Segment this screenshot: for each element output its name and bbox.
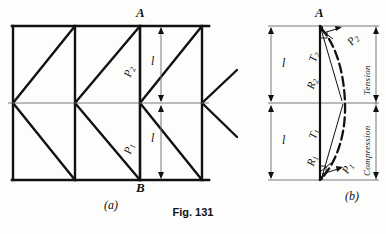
force-dim-arrow-upper-bottom xyxy=(268,95,274,102)
force-zone-tension-label: Tension xyxy=(363,65,372,95)
truss-dim-lower-label: l xyxy=(151,132,154,144)
figure-drawing xyxy=(0,0,386,234)
truss-dim-arrow-lower-bottom xyxy=(158,172,164,179)
truss-diagonal-3-upper xyxy=(140,26,202,103)
truss-node-A-label: A xyxy=(136,6,145,19)
force-vector-P2-arrowhead xyxy=(335,26,342,31)
truss-diagonal-1-lower xyxy=(13,103,75,180)
truss-diagonal-3-lower xyxy=(140,103,202,180)
force-dim-arrow-lower-top xyxy=(268,105,274,112)
truss-dim-arrow-upper-bottom xyxy=(158,95,164,102)
force-node-A-label: A xyxy=(315,6,324,19)
figure-page: A B l l P2 P1 (a) A l l Tension Compress… xyxy=(0,0,386,234)
truss-diagram xyxy=(8,26,237,180)
force-node-A-dot xyxy=(319,26,323,30)
truss-dim-arrow-upper-top xyxy=(158,27,164,34)
force-zone-arrow-top xyxy=(373,27,379,34)
truss-diagonal-4-lower xyxy=(202,103,237,137)
force-zone-arrow-mid-lower xyxy=(373,105,379,112)
truss-dim-upper-label: l xyxy=(151,55,154,67)
force-zone-arrow-mid-upper xyxy=(373,95,379,102)
truss-diagonal-2-upper xyxy=(75,26,140,103)
force-zone-compression-label: Compression xyxy=(363,126,372,176)
truss-dim-arrow-lower-top xyxy=(158,105,164,112)
truss-node-B-label: B xyxy=(136,181,145,194)
force-dim-upper-label: l xyxy=(282,57,285,69)
truss-diagonal-1-upper xyxy=(13,26,75,103)
truss-diagonal-2-lower xyxy=(75,103,140,180)
force-node-B-dot xyxy=(319,176,323,180)
force-dim-arrow-upper-top xyxy=(268,27,274,34)
truss-diagonal-4-upper xyxy=(202,70,237,103)
force-dim-lower-label: l xyxy=(282,134,285,146)
force-zone-arrow-bottom xyxy=(373,172,379,179)
figure-caption: Fig. 131 xyxy=(0,206,386,218)
force-dim-arrow-lower-bottom xyxy=(268,172,274,179)
part-b-label: (b) xyxy=(345,190,359,202)
